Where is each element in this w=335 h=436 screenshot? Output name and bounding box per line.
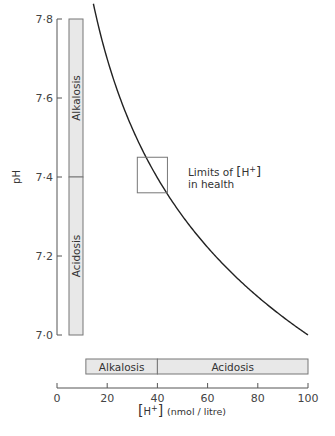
ph-hplus-chart: 7·07·27·47·67·8 pH Alkalosis Acidosis Li… — [0, 0, 335, 436]
ph-band-alkalosis-label: Alkalosis — [70, 75, 82, 121]
hplus-band-bar: Alkalosis Acidosis — [86, 359, 308, 374]
y-tick-label: 7·0 — [36, 329, 54, 342]
y-tick-label: 7·4 — [36, 171, 54, 184]
x-tick-label: 0 — [54, 392, 61, 405]
ph-band-acidosis-label: Acidosis — [70, 235, 82, 278]
y-tick-label: 7·6 — [36, 92, 54, 105]
annotation-line2: in health — [188, 178, 234, 190]
x-tick-label: 80 — [251, 392, 265, 405]
y-tick-label: 7·8 — [36, 13, 54, 26]
x-tick-label: 100 — [298, 392, 319, 405]
y-axis: 7·07·27·47·67·8 pH — [11, 13, 62, 342]
y-tick-label: 7·2 — [36, 250, 54, 263]
y-axis-title: pH — [11, 170, 22, 184]
ph-band-bar: Alkalosis Acidosis — [69, 19, 83, 335]
x-tick-label: 60 — [201, 392, 215, 405]
x-tick-label: 20 — [100, 392, 114, 405]
hplus-band-acidosis-label: Acidosis — [211, 361, 254, 373]
health-limits-annotation: Limits of [H+] in health — [188, 164, 261, 190]
x-axis: 020406080100 [H+](nmol / litre) — [54, 383, 319, 418]
hplus-band-alkalosis-label: Alkalosis — [99, 361, 145, 373]
annotation-line1: Limits of [H+] — [188, 164, 261, 179]
